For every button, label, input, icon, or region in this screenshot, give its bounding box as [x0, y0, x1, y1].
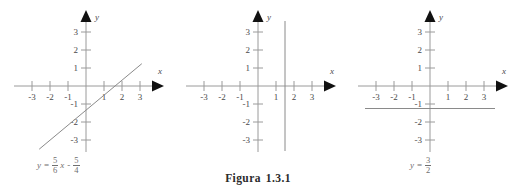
equation-equals: =	[43, 160, 50, 170]
intercept-numerator: 5	[73, 156, 79, 165]
y-tick-label: 1	[246, 63, 251, 73]
x-tick-label: 3	[310, 92, 315, 102]
x-tick-label: -3	[28, 92, 36, 102]
x-tick-label: -2	[46, 92, 54, 102]
x-tick-label: 1	[446, 92, 451, 102]
y-axis-arrowhead	[425, 10, 436, 22]
y-tick-label: -3	[415, 135, 423, 145]
x-tick-label: 2	[292, 92, 297, 102]
equation-xvar: x	[60, 160, 64, 170]
x-tick-label: -3	[372, 92, 380, 102]
y-tick-label: 3	[418, 27, 423, 37]
x-tick-label: 2	[464, 92, 469, 102]
x-tick-label: -3	[200, 92, 208, 102]
graph-panels: -3 -2 -1 1 2 3 3 2 1 -1 -2 -3 x	[0, 0, 516, 172]
y-tick-label: 1	[418, 63, 423, 73]
y-tick-label: -2	[243, 117, 251, 127]
figure-caption-number: 1.3.1	[266, 172, 291, 184]
x-axis-label: x	[501, 66, 506, 76]
x-axis-label: x	[157, 66, 162, 76]
x-tick-label: 3	[138, 92, 143, 102]
y-tick-label: 1	[74, 63, 79, 73]
figure-container: -3 -2 -1 1 2 3 3 2 1 -1 -2 -3 x	[0, 0, 516, 196]
x-axis-arrowhead	[152, 81, 164, 92]
graph-panel-1: -3 -2 -1 1 2 3 3 2 1 -1 -2 -3 x	[0, 0, 172, 172]
figure-caption: Figura1.3.1	[0, 172, 516, 184]
x-axis-arrowhead	[324, 81, 336, 92]
x-axis-label: x	[329, 66, 334, 76]
x-tick-label: 3	[482, 92, 487, 102]
x-tick-label: 2	[120, 92, 125, 102]
coordinate-plane-1: -3 -2 -1 1 2 3 3 2 1 -1 -2 -3 x	[0, 0, 172, 172]
y-axis-arrowhead	[253, 10, 264, 22]
y-tick-label: -1	[71, 99, 79, 109]
y-tick-label: -3	[71, 135, 79, 145]
plot-line-1	[39, 64, 142, 150]
y-tick-label: -3	[243, 135, 251, 145]
equation-sign: -	[66, 160, 71, 170]
y-tick-label: 2	[418, 45, 423, 55]
y-tick-label: -2	[415, 117, 423, 127]
figure-caption-label: Figura	[225, 172, 261, 184]
x-tick-label: -2	[218, 92, 226, 102]
coordinate-plane-2: -3 -2 -1 1 2 3 3 2 1 -1 -2 -3 x y	[172, 0, 344, 172]
equation-lhs: y	[37, 160, 41, 170]
coordinate-plane-3: -3 -2 -1 1 2 3 3 2 1 -1 -2 -3 x y	[344, 0, 516, 172]
slope-numerator: 5	[52, 156, 58, 165]
y-tick-label: 3	[246, 27, 251, 37]
y-tick-label: 2	[74, 45, 79, 55]
y-tick-label: 2	[246, 45, 251, 55]
x-tick-label: 1	[274, 92, 279, 102]
y-tick-label: -1	[415, 99, 423, 109]
y-axis-label: y	[266, 12, 271, 22]
graph-panel-3: -3 -2 -1 1 2 3 3 2 1 -1 -2 -3 x y	[344, 0, 516, 172]
y-axis-label: y	[438, 12, 443, 22]
y-axis-arrowhead	[81, 10, 92, 22]
graph-panel-2: -3 -2 -1 1 2 3 3 2 1 -1 -2 -3 x y	[172, 0, 344, 172]
x-tick-label: -2	[390, 92, 398, 102]
y-axis-label: y	[94, 12, 99, 22]
y-tick-label: 3	[74, 27, 79, 37]
y-tick-label: -1	[243, 99, 251, 109]
x-axis-arrowhead	[496, 81, 508, 92]
